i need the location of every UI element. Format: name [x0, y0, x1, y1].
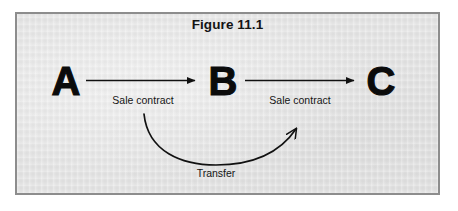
- edge-label-a-to-b: Sale contract: [112, 95, 173, 106]
- arrow-transfer-curve: [144, 114, 296, 165]
- diagram-canvas: A B C Sale contract Sale contract Transf…: [17, 14, 438, 193]
- figure-root: Figure 11.1 A: [0, 0, 458, 211]
- node-letter-a: A: [52, 61, 81, 101]
- node-letter-c: C: [367, 61, 396, 101]
- node-letter-b: B: [209, 61, 238, 101]
- edge-label-transfer: Transfer: [197, 168, 236, 179]
- figure-frame: Figure 11.1 A: [15, 12, 440, 195]
- edge-label-b-to-c: Sale contract: [269, 95, 330, 106]
